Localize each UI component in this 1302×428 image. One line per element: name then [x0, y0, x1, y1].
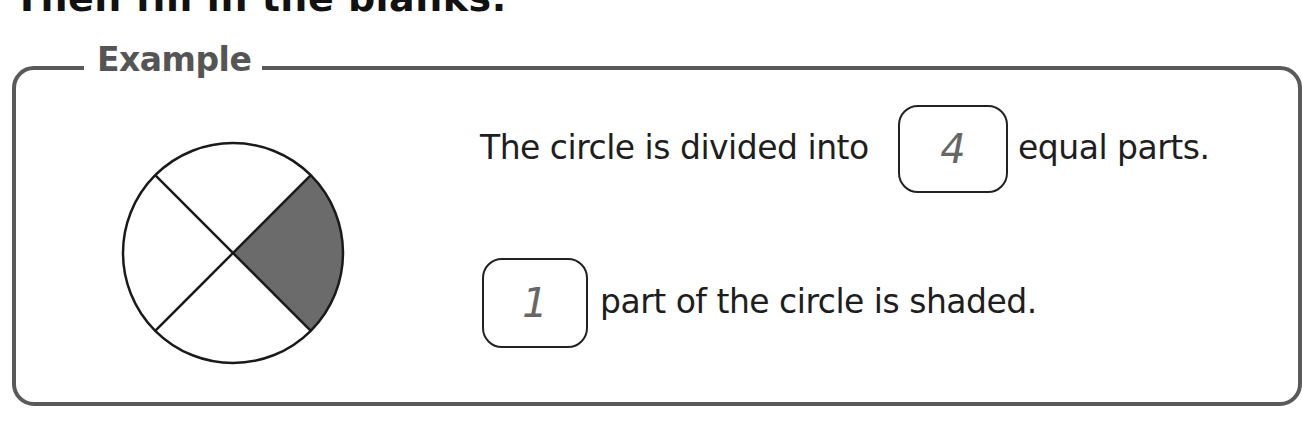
- example-label: Example: [97, 40, 251, 79]
- answer-box-parts[interactable]: 4: [898, 105, 1008, 193]
- answer-parts-value: 4: [940, 126, 965, 172]
- sentence1-after: equal parts.: [1018, 128, 1209, 167]
- sentence2-after: part of the circle is shaded.: [600, 282, 1037, 321]
- answer-box-shaded[interactable]: 1: [482, 258, 588, 348]
- answer-shaded-value: 1: [522, 280, 547, 326]
- sentence1-before: The circle is divided into: [480, 128, 869, 167]
- instruction-heading: Then fill in the blanks.: [14, 0, 507, 20]
- divided-circle-figure: [115, 135, 351, 371]
